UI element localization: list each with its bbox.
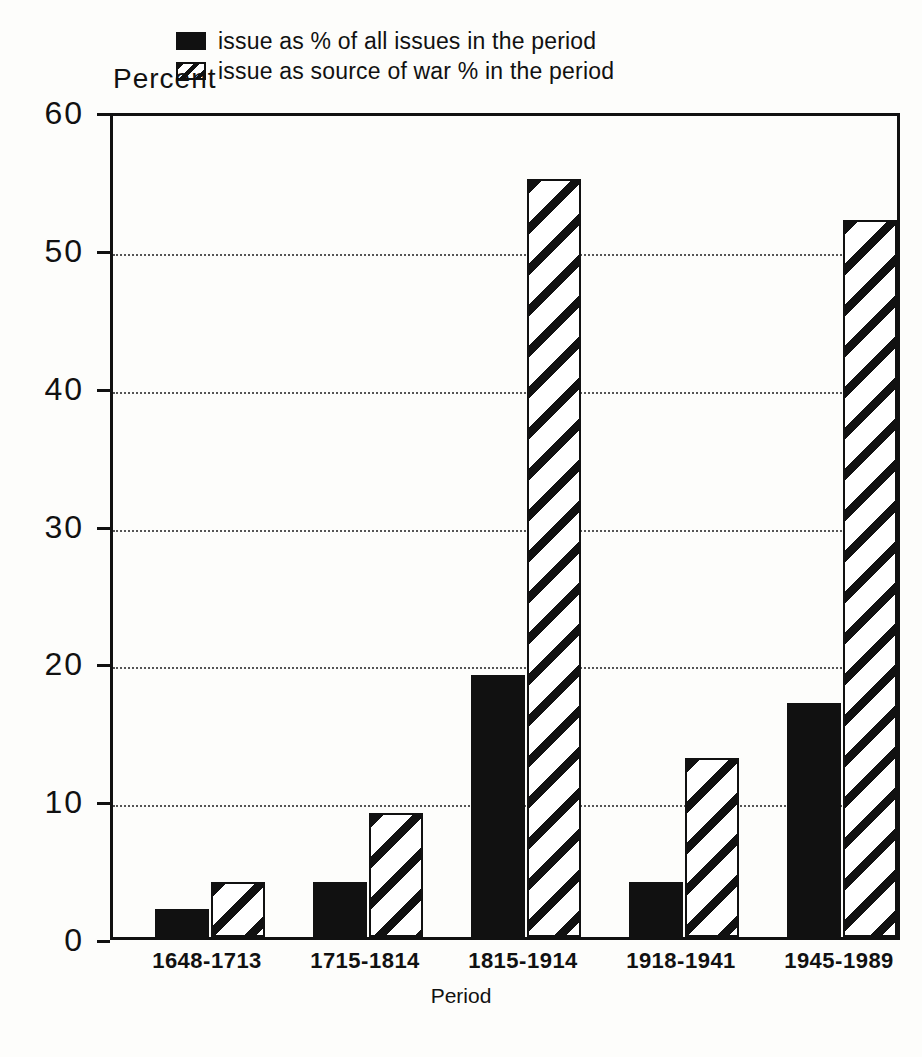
y-axis-tick <box>97 113 110 116</box>
bar <box>685 758 739 937</box>
bar <box>369 813 423 937</box>
bar <box>527 179 581 937</box>
figure-caption <box>140 1040 900 1057</box>
y-axis-tick <box>97 802 110 805</box>
gridline <box>113 254 897 256</box>
bar <box>471 675 525 937</box>
y-axis-tick <box>97 389 110 392</box>
x-axis-tick-label: 1815-1914 <box>468 948 578 974</box>
bar <box>211 882 265 937</box>
x-axis-title: Period <box>0 984 922 1008</box>
x-axis-tick-labels: 1648-17131715-18141815-19141918-19411945… <box>110 948 900 982</box>
x-axis-tick-label: 1945-1989 <box>784 948 894 974</box>
legend-item-source-of-war: issue as source of war % in the period <box>176 56 896 86</box>
y-axis-title: Percent <box>113 63 217 95</box>
y-axis: 0102030405060 <box>0 113 110 940</box>
y-axis-tick <box>97 527 110 530</box>
y-axis-tick-label: 0 <box>64 922 84 959</box>
gridline <box>113 530 897 532</box>
legend-item-label: issue as source of war % in the period <box>218 58 614 85</box>
y-axis-tick <box>97 664 110 667</box>
bar <box>155 909 209 937</box>
x-axis-tick-label: 1715-1814 <box>310 948 420 974</box>
y-axis-tick <box>97 251 110 254</box>
bar <box>843 220 897 937</box>
y-axis-tick-label: 60 <box>44 95 84 132</box>
figure-container: issue as % of all issues in the period i… <box>0 0 922 1057</box>
y-axis-tick-label: 20 <box>44 646 84 683</box>
x-axis-tick-label: 1648-1713 <box>152 948 262 974</box>
legend-item-issue-share: issue as % of all issues in the period <box>176 26 896 56</box>
chart-legend: issue as % of all issues in the period i… <box>176 26 896 86</box>
bar <box>629 882 683 937</box>
bar <box>313 882 367 937</box>
legend-item-label: issue as % of all issues in the period <box>218 28 596 55</box>
y-axis-tick-label: 50 <box>44 232 84 269</box>
bar <box>787 703 841 937</box>
y-axis-tick-label: 30 <box>44 508 84 545</box>
y-axis-tick <box>97 940 110 943</box>
plot-area <box>110 113 900 940</box>
gridline <box>113 392 897 394</box>
x-axis-tick-label: 1918-1941 <box>626 948 736 974</box>
gridline <box>113 667 897 669</box>
solid-square-icon <box>176 32 206 50</box>
y-axis-tick-label: 40 <box>44 370 84 407</box>
y-axis-tick-label: 10 <box>44 784 84 821</box>
